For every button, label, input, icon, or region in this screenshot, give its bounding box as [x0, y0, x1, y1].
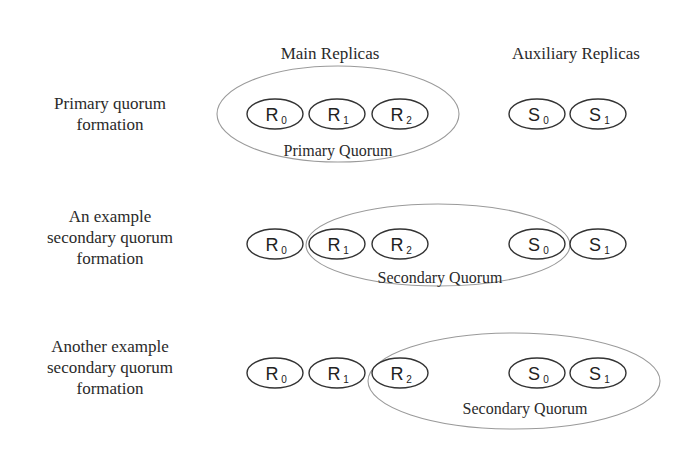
- row2-node-s1: S 1: [570, 229, 626, 259]
- header-auxiliary-replicas: Auxiliary Replicas: [512, 44, 640, 63]
- primary-quorum-label: Primary Quorum: [284, 142, 393, 160]
- svg-text:1: 1: [343, 245, 349, 256]
- quorum-diagram: Main Replicas Auxiliary Replicas Primary…: [0, 0, 687, 458]
- svg-text:R: R: [391, 105, 404, 125]
- svg-text:1: 1: [604, 245, 610, 256]
- svg-text:R: R: [328, 364, 341, 384]
- row3-node-r1: R 1: [309, 358, 365, 388]
- row1-node-r1: R 1: [309, 99, 365, 129]
- svg-text:1: 1: [343, 115, 349, 126]
- svg-text:2: 2: [406, 115, 412, 126]
- secondary-quorum-label-1: Secondary Quorum: [378, 269, 503, 287]
- row3-label-line1: Another example: [51, 337, 169, 356]
- row3-label-line2: secondary quorum: [47, 358, 173, 377]
- svg-text:S: S: [528, 235, 540, 255]
- row2-node-r2: R 2: [372, 229, 428, 259]
- row2-node-s0: S 0: [509, 229, 565, 259]
- svg-text:1: 1: [604, 115, 610, 126]
- svg-text:R: R: [266, 364, 279, 384]
- row2-label-line1: An example: [69, 207, 152, 226]
- svg-text:0: 0: [281, 115, 287, 126]
- svg-text:S: S: [589, 364, 601, 384]
- svg-text:R: R: [391, 235, 404, 255]
- svg-text:R: R: [328, 105, 341, 125]
- row1-node-r2: R 2: [372, 99, 428, 129]
- row3-label-line3: formation: [76, 379, 144, 398]
- svg-text:R: R: [266, 235, 279, 255]
- svg-text:S: S: [528, 364, 540, 384]
- row2-node-r0: R 0: [247, 229, 303, 259]
- svg-text:1: 1: [604, 374, 610, 385]
- header-main-replicas: Main Replicas: [281, 44, 380, 63]
- svg-text:2: 2: [406, 245, 412, 256]
- svg-text:S: S: [589, 105, 601, 125]
- svg-text:0: 0: [281, 245, 287, 256]
- svg-text:0: 0: [543, 115, 549, 126]
- svg-text:0: 0: [543, 245, 549, 256]
- svg-text:R: R: [266, 105, 279, 125]
- row1-node-s0: S 0: [509, 99, 565, 129]
- row1-node-r0: R 0: [247, 99, 303, 129]
- svg-text:R: R: [391, 364, 404, 384]
- row3-node-r2: R 2: [372, 358, 428, 388]
- svg-text:1: 1: [343, 374, 349, 385]
- svg-text:0: 0: [543, 374, 549, 385]
- svg-text:S: S: [528, 105, 540, 125]
- svg-text:0: 0: [281, 374, 287, 385]
- row2-label-line3: formation: [76, 249, 144, 268]
- svg-text:R: R: [328, 235, 341, 255]
- row3-node-r0: R 0: [247, 358, 303, 388]
- row2-label-line2: secondary quorum: [47, 228, 173, 247]
- row1-label-line2: formation: [76, 115, 144, 134]
- svg-text:S: S: [589, 235, 601, 255]
- svg-text:2: 2: [406, 374, 412, 385]
- row3-node-s1: S 1: [570, 358, 626, 388]
- secondary-quorum-label-2: Secondary Quorum: [463, 400, 588, 418]
- row3-node-s0: S 0: [509, 358, 565, 388]
- row2-node-r1: R 1: [309, 229, 365, 259]
- row1-node-s1: S 1: [570, 99, 626, 129]
- row1-label-line1: Primary quorum: [54, 94, 166, 113]
